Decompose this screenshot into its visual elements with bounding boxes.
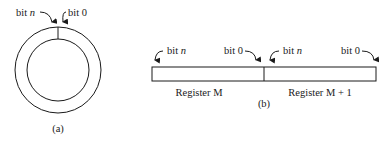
circular-register-figure: bit n bit 0 (a) bbox=[15, 7, 101, 135]
register-m-bit-0-arrow bbox=[245, 51, 256, 60]
diagram-canvas: bit n bit 0 (a) bit n bit 0 Register M b… bbox=[0, 0, 390, 146]
bit-n-label-a: bit n bbox=[16, 7, 35, 18]
register-m: bit n bit 0 Register M bbox=[155, 45, 256, 98]
register-m1-bit-n-label: bit n bbox=[283, 45, 302, 56]
register-m1-bit-0-arrow bbox=[362, 51, 374, 60]
register-m-bit-0-label: bit 0 bbox=[224, 45, 243, 56]
register-m-bit-n-label: bit n bbox=[167, 45, 186, 56]
outer-ring bbox=[15, 27, 101, 113]
register-m-label: Register M bbox=[176, 87, 224, 98]
register-m-plus-1: bit n bit 0 Register M + 1 bbox=[270, 45, 374, 98]
register-m1-label: Register M + 1 bbox=[288, 87, 351, 98]
caption-a: (a) bbox=[52, 123, 64, 135]
bit-n-arrow-a bbox=[40, 12, 52, 22]
linear-registers-figure: bit n bit 0 Register M bit n bit 0 Regis… bbox=[152, 45, 376, 110]
caption-b: (b) bbox=[258, 98, 271, 110]
register-m1-bit-0-label: bit 0 bbox=[341, 45, 360, 56]
bit-0-arrow-a bbox=[63, 12, 66, 22]
register-m1-bit-n-arrow bbox=[270, 51, 279, 60]
inner-ring bbox=[27, 39, 89, 101]
register-m-bit-n-arrow bbox=[155, 51, 163, 60]
bit-0-label-a: bit 0 bbox=[68, 7, 87, 18]
